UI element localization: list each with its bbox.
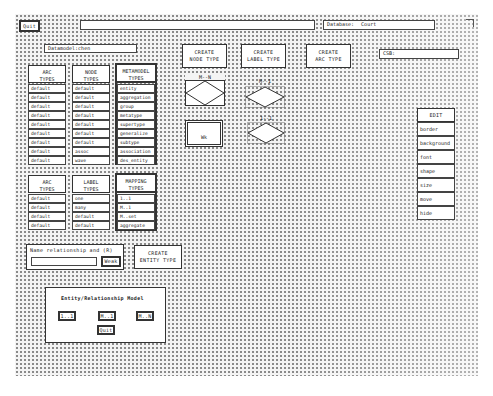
arc-type-cell[interactable]: default (28, 84, 66, 93)
mn-label: M--N (185, 74, 225, 80)
relationship-name-panel: Name relationship and (R) Weak (26, 244, 124, 270)
mapping-type-cell[interactable]: aggregate (117, 221, 155, 230)
node-type-cell[interactable]: assoc (72, 147, 110, 156)
one-one-relationship-shape[interactable]: 1--1 (247, 122, 285, 144)
create-arc-type-label: CREATE ARC TYPE (307, 45, 350, 63)
metamodel-type-cell[interactable]: generalize (117, 129, 155, 138)
quit-label: Quit (21, 22, 38, 30)
arc-type-cell[interactable]: default (28, 147, 66, 156)
arc-type-cell[interactable]: default (28, 93, 66, 102)
node-type-cell[interactable]: default (72, 102, 110, 111)
quit-button[interactable]: Quit (19, 20, 40, 32)
diamond-icon (245, 86, 285, 108)
mapping-type-cell[interactable]: 1..1 (117, 194, 155, 203)
metamodel-type-cell[interactable]: association (117, 147, 155, 156)
create-node-type-label: CREATE NODE TYPE (183, 45, 226, 63)
er-quit-label: Quit (99, 327, 113, 333)
arc-types-header: ARC TYPES (28, 65, 66, 83)
create-arc-type-button[interactable]: CREATE ARC TYPE (306, 44, 351, 68)
edit-font-item[interactable]: font (417, 150, 455, 164)
node-type-cell[interactable]: default (72, 93, 110, 102)
arc-type-cell[interactable]: default (28, 194, 66, 203)
mn-relationship-shape[interactable]: M--N (185, 80, 225, 106)
metamodel-type-cell[interactable]: entity (117, 84, 155, 93)
edit-shape-item[interactable]: shape (417, 164, 455, 178)
label-type-cell[interactable]: default (72, 221, 110, 230)
node-type-cell[interactable]: default (72, 120, 110, 129)
mapping-type-cell[interactable]: M..1 (117, 203, 155, 212)
metamodel-type-cell[interactable]: aggregation (117, 93, 155, 102)
edit-move-item[interactable]: move (417, 192, 455, 206)
m1-relationship-shape[interactable]: M--1 (245, 86, 285, 108)
metamodel-type-cell[interactable]: subtype (117, 138, 155, 147)
arc-type-cell[interactable]: default (28, 212, 66, 221)
database-value: Court (361, 21, 376, 27)
node-type-cell[interactable]: wave (72, 156, 110, 165)
database-label: Database: (327, 21, 354, 27)
metamodel-type-cell[interactable]: des_entity (117, 156, 155, 165)
label-type-cell[interactable]: many (72, 203, 110, 212)
many-to-many-button[interactable]: M..N (136, 311, 154, 321)
node-type-cell[interactable]: default (72, 84, 110, 93)
edit-border-item[interactable]: border (417, 122, 455, 136)
arc-type-cell[interactable]: default (28, 138, 66, 147)
many-to-many-label: M..N (138, 313, 152, 319)
resize-corner-icon[interactable] (466, 19, 474, 27)
create-entity-type-label: CREATE ENTITY TYPE (135, 246, 181, 264)
node-type-cell[interactable]: default (72, 129, 110, 138)
weak-label: Weak (103, 258, 119, 265)
m1-label: M--1 (245, 78, 285, 84)
many-to-one-label: M..1 (100, 313, 114, 319)
create-entity-type-button[interactable]: CREATE ENTITY TYPE (134, 245, 182, 269)
relationship-name-input[interactable] (31, 257, 97, 266)
relationship-prompt: Name relationship and (R) (30, 247, 113, 253)
metamodel-type-cell[interactable]: metatype (117, 111, 155, 120)
edit-title-text: EDIT (418, 109, 454, 121)
arc-type-cell[interactable]: default (28, 129, 66, 138)
node-types-header: NODE TYPES (72, 65, 110, 83)
label-types-header: LABEL TYPES (72, 175, 110, 193)
title-field[interactable] (80, 20, 315, 30)
arc-type-cell[interactable]: default (28, 102, 66, 111)
arc-type-cell[interactable]: default (28, 120, 66, 129)
many-to-one-button[interactable]: M..1 (98, 311, 116, 321)
metamodel-type-cell[interactable]: group (117, 102, 155, 111)
weak-button[interactable]: Weak (101, 256, 121, 267)
label-type-cell[interactable]: default (72, 212, 110, 221)
arc-type-cell[interactable]: default (28, 156, 66, 165)
datamodel-field[interactable]: Datamodel:chen (44, 44, 137, 53)
csb-field[interactable]: CSB: (379, 49, 459, 59)
database-field[interactable]: Database: Court (323, 20, 435, 30)
arc-type-cell[interactable]: default (28, 203, 66, 212)
label-type-cell[interactable]: one (72, 194, 110, 203)
mapping-type-cell[interactable]: M..set (117, 212, 155, 221)
datamodel-label: Datamodel: (48, 45, 78, 51)
one-to-one-button[interactable]: 1..1 (58, 311, 76, 321)
edit-menu-title: EDIT (417, 108, 455, 122)
csb-label: CSB: (383, 50, 395, 56)
node-type-cell[interactable]: default (72, 111, 110, 120)
create-label-type-button[interactable]: CREATE LABEL TYPE (241, 44, 286, 68)
diamond-in-box-icon (185, 80, 225, 106)
metamodel-type-cell[interactable]: supertype (117, 120, 155, 129)
edit-menu: EDIT border background font shape size m… (417, 108, 455, 220)
datamodel-value: chen (78, 45, 90, 51)
arc-type-cell[interactable]: default (28, 111, 66, 120)
node-type-cell[interactable]: default (72, 138, 110, 147)
arc-type-cell[interactable]: default (28, 221, 66, 230)
create-node-type-button[interactable]: CREATE NODE TYPE (182, 44, 227, 68)
one-one-label: 1--1 (247, 115, 285, 121)
weak-entity-label: Wk (185, 134, 223, 140)
arc-types-header-2: ARC TYPES (28, 175, 66, 193)
er-model-dialog: Entity/Relationship Model 1..1 M..1 M..N… (45, 287, 166, 343)
one-to-one-label: 1..1 (60, 313, 74, 319)
diamond-icon (247, 122, 285, 144)
weak-entity-shape[interactable]: Wk (185, 120, 223, 147)
edit-size-item[interactable]: size (417, 178, 455, 192)
edit-background-item[interactable]: background (417, 136, 455, 150)
edit-hide-item[interactable]: hide (417, 206, 455, 220)
er-quit-button[interactable]: Quit (97, 325, 115, 335)
er-model-title: Entity/Relationship Model (61, 295, 144, 301)
create-label-type-label: CREATE LABEL TYPE (242, 45, 285, 63)
